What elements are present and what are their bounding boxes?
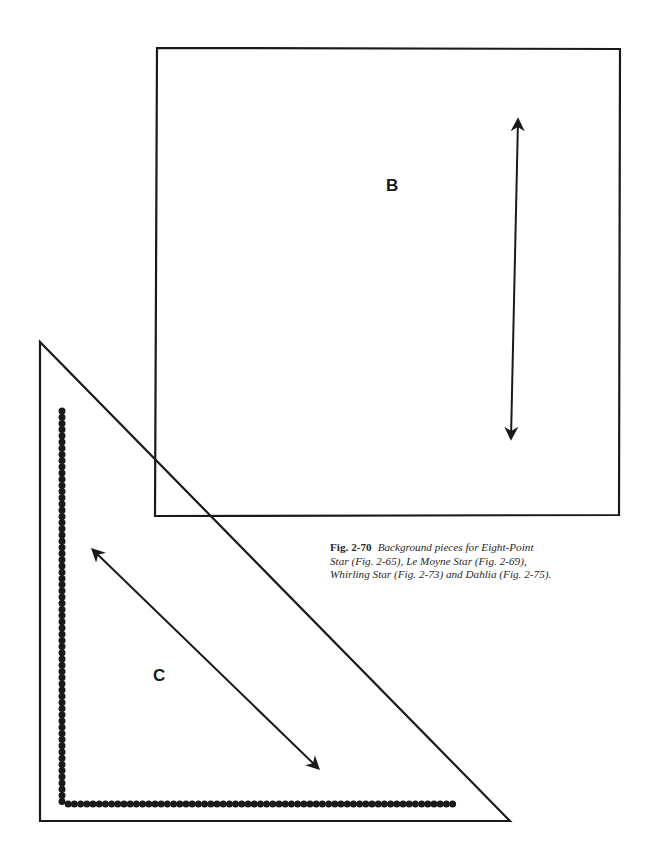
seam-dot bbox=[90, 801, 97, 808]
seam-dot bbox=[220, 801, 227, 808]
seam-dot bbox=[59, 730, 66, 737]
seam-dot bbox=[59, 426, 66, 433]
seam-dot bbox=[59, 451, 66, 458]
seam-dot bbox=[288, 801, 295, 808]
seam-dot bbox=[164, 801, 171, 808]
seam-dot bbox=[59, 773, 66, 780]
seam-dot bbox=[121, 801, 128, 808]
seam-dot bbox=[77, 801, 84, 808]
seam-dot bbox=[195, 801, 202, 808]
seam-dot bbox=[393, 801, 400, 808]
seam-dot bbox=[59, 513, 66, 520]
seam-dot bbox=[145, 801, 152, 808]
seam-dot bbox=[59, 711, 66, 718]
seam-dot bbox=[350, 801, 357, 808]
seam-dot bbox=[102, 801, 109, 808]
seam-dot bbox=[59, 674, 66, 681]
seam-dot bbox=[59, 414, 66, 421]
seam-dot bbox=[449, 801, 456, 808]
caption-line: Star (Fig. 2-65), Le Moyne Star (Fig. 2-… bbox=[330, 555, 527, 567]
seam-dot bbox=[338, 801, 345, 808]
seam-dot bbox=[59, 649, 66, 656]
seam-dot bbox=[59, 668, 66, 675]
seam-dot bbox=[59, 693, 66, 700]
caption-line: Whirling Star (Fig. 2-73) and Dahlia (Fi… bbox=[330, 568, 551, 580]
seam-dot bbox=[59, 494, 66, 501]
seam-dot bbox=[331, 801, 338, 808]
pattern-diagram bbox=[0, 0, 655, 854]
seam-dot bbox=[381, 801, 388, 808]
seam-dot bbox=[369, 801, 376, 808]
seam-dot bbox=[59, 488, 66, 495]
caption-line: Background pieces for Eight-Point bbox=[378, 541, 534, 553]
seam-dot bbox=[300, 801, 307, 808]
figure-caption: Fig. 2-70Background pieces for Eight-Poi… bbox=[330, 541, 655, 582]
seam-dot bbox=[59, 656, 66, 663]
seam-dot bbox=[406, 801, 413, 808]
seam-dot bbox=[59, 532, 66, 539]
seam-dot bbox=[59, 786, 66, 793]
seam-dot bbox=[59, 594, 66, 601]
seam-dot bbox=[431, 801, 438, 808]
seam-dot bbox=[325, 801, 332, 808]
seam-dot bbox=[65, 801, 72, 808]
seam-dot bbox=[59, 476, 66, 483]
seam-dot bbox=[183, 801, 190, 808]
seam-dot bbox=[344, 801, 351, 808]
seam-dot bbox=[59, 501, 66, 508]
seam-dot bbox=[282, 801, 289, 808]
seam-dot bbox=[59, 544, 66, 551]
seam-dot bbox=[307, 801, 314, 808]
seam-dot bbox=[59, 612, 66, 619]
seam-dot bbox=[201, 801, 208, 808]
seam-dot bbox=[412, 801, 419, 808]
seam-dot bbox=[59, 618, 66, 625]
seam-dot bbox=[170, 801, 177, 808]
seam-dot bbox=[59, 792, 66, 799]
seam-dot bbox=[59, 581, 66, 588]
seam-dot bbox=[59, 637, 66, 644]
seam-dot bbox=[232, 801, 239, 808]
seam-dot bbox=[59, 538, 66, 545]
grain-arrow-icon bbox=[511, 120, 518, 438]
seam-dot bbox=[59, 556, 66, 563]
seam-dot bbox=[387, 801, 394, 808]
seam-dot bbox=[59, 600, 66, 607]
seam-dot bbox=[319, 801, 326, 808]
seam-dot bbox=[59, 563, 66, 570]
seam-dot bbox=[59, 457, 66, 464]
seam-dot bbox=[251, 801, 258, 808]
seam-dot bbox=[269, 801, 276, 808]
seam-dot bbox=[443, 801, 450, 808]
seam-dot bbox=[238, 801, 245, 808]
seam-dot bbox=[59, 749, 66, 756]
seam-dot bbox=[189, 801, 196, 808]
seam-dot bbox=[356, 801, 363, 808]
seam-dot bbox=[108, 801, 115, 808]
piece-label-b: B bbox=[386, 177, 398, 194]
seam-dot bbox=[214, 801, 221, 808]
seam-dot bbox=[437, 801, 444, 808]
seam-dot bbox=[127, 801, 134, 808]
seam-dot bbox=[83, 801, 90, 808]
seam-dot bbox=[59, 420, 66, 427]
seam-dot bbox=[59, 625, 66, 632]
seam-dot bbox=[59, 767, 66, 774]
seam-dot bbox=[59, 463, 66, 470]
square-piece-b bbox=[155, 48, 620, 516]
seam-dot bbox=[59, 445, 66, 452]
grain-arrow-icon bbox=[93, 550, 318, 768]
seam-dot bbox=[276, 801, 283, 808]
seam-dot bbox=[59, 507, 66, 514]
figure-number: Fig. 2-70 bbox=[330, 541, 372, 553]
seam-dot bbox=[71, 801, 78, 808]
seam-dot bbox=[139, 801, 146, 808]
seam-dot bbox=[114, 801, 121, 808]
seam-dot bbox=[158, 801, 165, 808]
seam-dot bbox=[96, 801, 103, 808]
seam-dot bbox=[362, 801, 369, 808]
seam-dot bbox=[59, 699, 66, 706]
seam-dot bbox=[424, 801, 431, 808]
seam-dot bbox=[263, 801, 270, 808]
seam-dot bbox=[59, 724, 66, 731]
